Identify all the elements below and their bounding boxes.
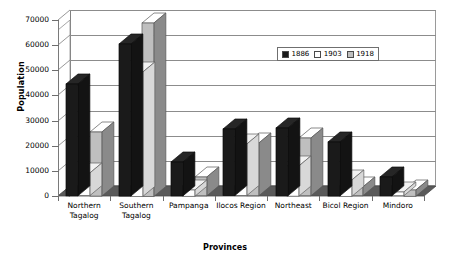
- chart-figure: Population Provinces 0100002000030000400…: [0, 0, 450, 263]
- bar-1886-ilocos-region: [223, 119, 249, 198]
- y-axis-tick: [52, 171, 59, 172]
- side-gridline: [58, 60, 71, 72]
- y-axis-tick-label: 30000: [0, 117, 49, 125]
- bar-1886-northeast: [276, 118, 302, 198]
- legend-item-1903[interactable]: 1903: [314, 50, 341, 58]
- y-axis-tick-label: 60000: [0, 41, 49, 49]
- legend-label: 1886: [292, 50, 310, 58]
- legend-swatch-1903: [314, 51, 321, 58]
- bar-1886-pampanga: [171, 152, 197, 198]
- legend-item-1918[interactable]: 1918: [347, 50, 374, 58]
- y-axis-tick: [52, 20, 59, 21]
- bar-1886-southern-tagalog: [119, 34, 145, 198]
- side-gridline: [58, 10, 71, 22]
- legend-swatch-1918: [347, 51, 354, 58]
- legend-label: 1903: [324, 50, 342, 58]
- legend-label: 1918: [356, 50, 374, 58]
- y-axis-tick: [52, 146, 59, 147]
- x-axis-title: Provinces: [0, 243, 450, 252]
- y-axis-tick-label: 10000: [0, 167, 49, 175]
- legend-swatch-1886: [282, 51, 289, 58]
- bar-1886-northern-tagalog: [66, 74, 92, 198]
- y-axis-tick-label: 40000: [0, 91, 49, 99]
- legend-item-1886[interactable]: 1886: [282, 50, 309, 58]
- y-axis-tick-label: 20000: [0, 142, 49, 150]
- y-axis-tick-label: 0: [0, 192, 49, 200]
- y-axis-tick-label: 50000: [0, 66, 49, 74]
- y-axis-tick: [52, 95, 59, 96]
- gridline: [70, 10, 436, 11]
- bar-1886-mindoro: [380, 167, 406, 198]
- y-axis-tick: [52, 121, 59, 122]
- side-gridline: [58, 35, 71, 47]
- y-axis-tick: [52, 45, 59, 46]
- x-axis-label-mindoro: Mindoro: [366, 201, 430, 211]
- chart-legend[interactable]: 188619031918: [277, 47, 379, 61]
- bar-1886-bicol-region: [328, 132, 354, 198]
- y-axis-tick-label: 70000: [0, 16, 49, 24]
- y-axis-tick: [52, 70, 59, 71]
